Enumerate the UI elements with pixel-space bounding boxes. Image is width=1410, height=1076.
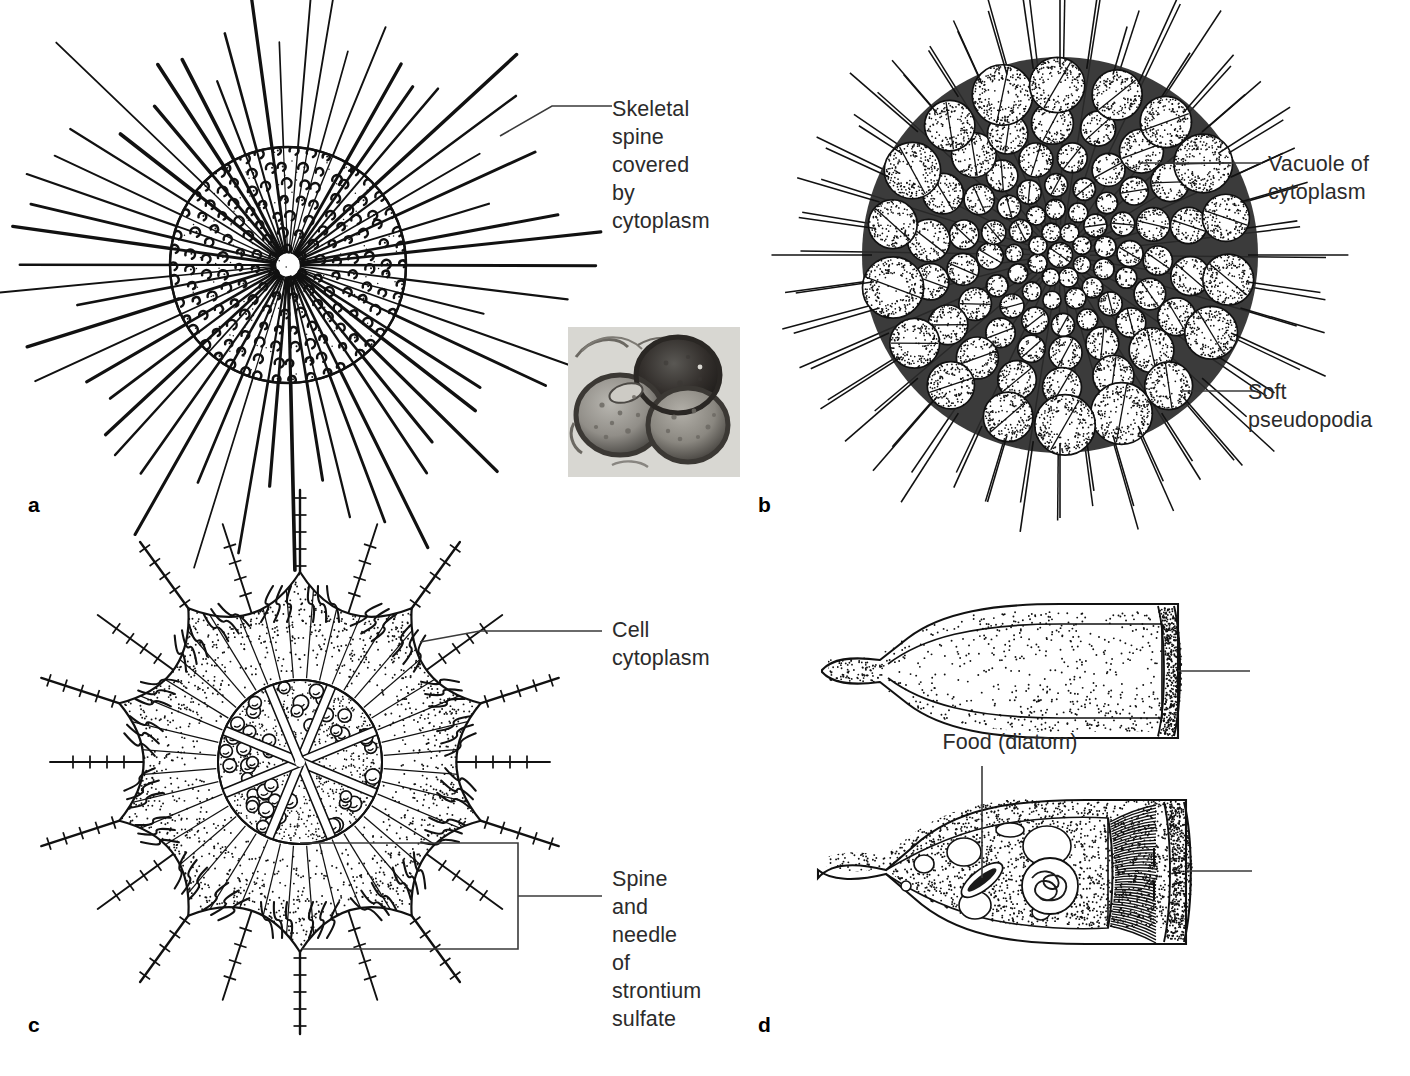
vacuole-callout-text: Vacuole of cytoplasm [1268, 150, 1369, 206]
vacuole-leader [1140, 150, 1270, 176]
macronucleus [1022, 858, 1078, 914]
strontium-sulfate-callout-text: Spine and needle of strontium sulfate [612, 865, 701, 1033]
ciliate-in-lorica-figure [818, 799, 1193, 947]
pseudopodia-leader [1180, 378, 1262, 404]
panel-d-tintinnid: Empty shell or “lorica” Food (diatom) Ci… [760, 560, 1410, 1030]
food-diatom-callout-text: Food (diatom) [900, 728, 1120, 756]
panel-c-drawing [0, 510, 620, 1040]
panel-letter-d: d [758, 1014, 771, 1035]
inset-photo-image [568, 327, 740, 477]
panel-b-vacuolated-radiolarian: Vacuole of cytoplasm Soft pseudopodia [760, 0, 1410, 500]
cell-cytoplasm-leader [420, 616, 610, 646]
figure-root: Skeletal spine covered by cytoplasm a [0, 0, 1410, 1076]
skeletal-spine-leader [500, 100, 620, 140]
panel-a-radiolarian: Skeletal spine covered by cytoplasm [0, 0, 600, 500]
panel-letter-b: b [758, 494, 771, 515]
radiolarian-test [169, 146, 406, 383]
panel-c-acantharian: Cell cytoplasm Spine and needle of stron… [0, 510, 620, 1040]
panel-d-drawing [760, 560, 1410, 1030]
pseudopodia-callout-text: Soft pseudopodia [1248, 378, 1372, 434]
empty-lorica-figure [822, 604, 1182, 738]
electron-micrograph-inset [568, 327, 740, 477]
skeletal-spine-callout-text: Skeletal spine covered by cytoplasm [612, 95, 710, 235]
panel-letter-c: c [28, 1014, 40, 1035]
strontium-sulfate-bracket-leader [290, 838, 610, 958]
panel-a-drawing [0, 0, 600, 500]
cell-cytoplasm-callout-text: Cell cytoplasm [612, 616, 710, 672]
